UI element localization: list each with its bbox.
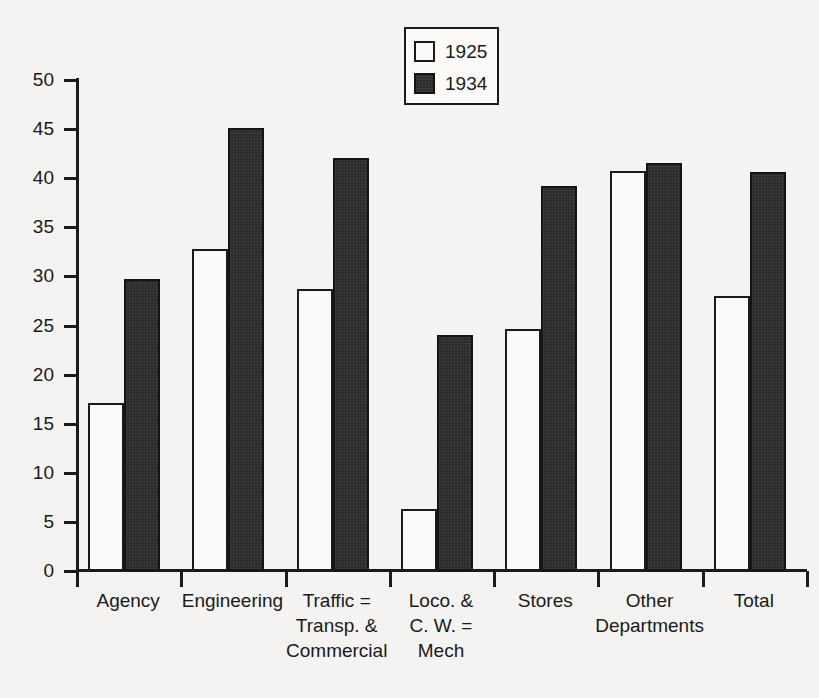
hollow-square-swatch-icon <box>414 41 435 62</box>
y-axis-tick-label: 50 <box>8 70 54 89</box>
bar-1925-loco <box>401 509 437 571</box>
bar-1934-total <box>750 172 786 571</box>
bar-1925-engineering <box>192 249 228 571</box>
x-axis-tick <box>806 571 809 587</box>
bar-1925-agency <box>88 403 124 571</box>
y-axis-tick-label: 35 <box>8 217 54 236</box>
x-axis-category-label: Stores <box>485 588 605 613</box>
legend-label-1925: 1925 <box>445 42 487 61</box>
x-axis-tick <box>493 571 496 587</box>
x-axis-tick <box>180 571 183 587</box>
bar-1934-traffic <box>333 158 369 571</box>
bar-1925-stores <box>505 329 541 571</box>
plot-area <box>76 80 806 571</box>
x-axis-category-label: Loco. & C. W. = Mech <box>381 588 501 663</box>
bar-1925-other <box>610 171 646 571</box>
x-axis-category-label: Traffic = Transp. & Commercial <box>277 588 397 663</box>
y-axis-tick-label: 0 <box>8 561 54 580</box>
x-axis-category-label: Engineering <box>172 588 292 613</box>
x-axis-category-label: Total <box>694 588 814 613</box>
bar-1934-engineering <box>228 128 264 571</box>
bar-1934-agency <box>124 279 160 571</box>
bar-chart: 1925 1934 05101520253035404550 AgencyEng… <box>0 0 819 698</box>
bar-1934-other <box>646 163 682 571</box>
y-axis-tick-label: 45 <box>8 119 54 138</box>
bar-1934-stores <box>541 186 577 571</box>
x-axis-tick <box>597 571 600 587</box>
bar-1934-loco <box>437 335 473 571</box>
x-axis-tick <box>76 571 79 587</box>
bar-1925-total <box>714 296 750 571</box>
y-axis-tick-label: 40 <box>8 168 54 187</box>
y-axis-tick-label: 15 <box>8 414 54 433</box>
y-axis-tick-label: 30 <box>8 266 54 285</box>
legend-entry-1925: 1925 <box>414 35 497 67</box>
y-axis-tick-label: 25 <box>8 316 54 335</box>
x-axis-tick <box>702 571 705 587</box>
y-axis-tick-label: 20 <box>8 365 54 384</box>
x-axis-category-label: Other Departments <box>589 588 709 638</box>
y-axis-tick-label: 10 <box>8 463 54 482</box>
x-axis-tick <box>389 571 392 587</box>
x-axis-category-label: Agency <box>68 588 188 613</box>
x-axis-tick <box>285 571 288 587</box>
bar-1925-traffic <box>297 289 333 571</box>
y-axis-tick-label: 5 <box>8 512 54 531</box>
